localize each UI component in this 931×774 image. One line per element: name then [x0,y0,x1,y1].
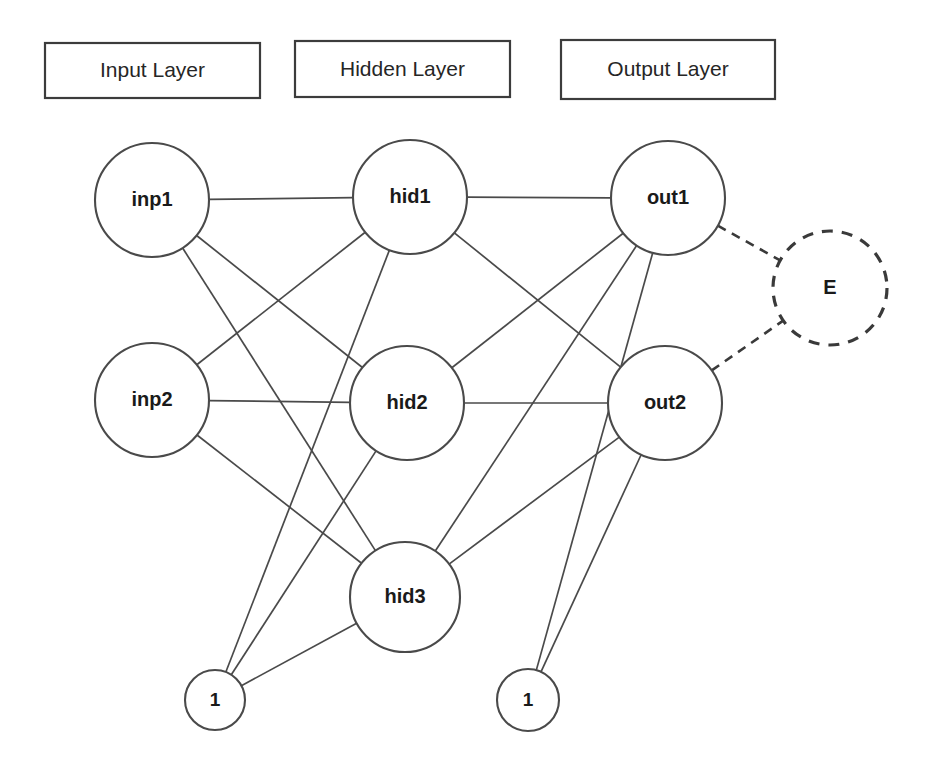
edge-hid1-to-out1 [467,197,611,198]
edge-out1-to-error [718,226,780,261]
edge-hid3-to-out1 [435,246,636,551]
node-bias1[interactable]: 1 [185,670,245,730]
output-layer-box-label: Output Layer [607,57,728,80]
node-label-hid2: hid2 [386,391,427,413]
node-label-error: E [823,276,836,298]
input-layer-box: Input Layer [45,43,260,98]
neural-network-diagram: inp1inp2hid1hid2hid3out1out2E11 Input La… [0,0,931,774]
node-label-hid3: hid3 [384,585,425,607]
hidden-layer-box-label: Hidden Layer [340,57,465,80]
node-label-inp2: inp2 [131,388,172,410]
node-inp1[interactable]: inp1 [95,143,209,257]
edge-bias2-to-out1 [536,253,652,670]
node-label-bias2: 1 [523,689,534,710]
node-hid1[interactable]: hid1 [353,140,467,254]
hidden-layer-box: Hidden Layer [295,41,510,97]
node-out1[interactable]: out1 [611,141,725,255]
node-inp2[interactable]: inp2 [95,343,209,457]
node-label-out1: out1 [647,186,689,208]
edge-inp1-to-hid3 [183,248,376,551]
nodes-group: inp1inp2hid1hid2hid3out1out2E11 [95,140,887,731]
edge-hid3-to-out2 [449,437,619,564]
edge-out2-to-error [712,321,783,371]
edge-inp2-to-hid1 [197,232,365,365]
node-label-bias1: 1 [210,689,221,710]
node-label-hid1: hid1 [389,185,430,207]
node-label-out2: out2 [644,391,686,413]
input-layer-box-label: Input Layer [100,58,205,81]
edge-bias1-to-hid2 [231,451,376,675]
diagram-canvas: inp1inp2hid1hid2hid3out1out2E11 Input La… [0,0,931,774]
node-label-inp1: inp1 [131,188,172,210]
edge-bias2-to-out2 [541,455,641,672]
node-bias2[interactable]: 1 [497,669,559,731]
layer-boxes-group: Input LayerHidden LayerOutput Layer [45,40,775,99]
edge-inp1-to-hid2 [197,236,363,368]
node-hid3[interactable]: hid3 [350,542,460,652]
node-error[interactable]: E [773,231,887,345]
edge-inp2-to-hid3 [197,435,362,563]
edge-inp1-to-hid1 [209,198,353,200]
output-layer-box: Output Layer [561,40,775,99]
node-out2[interactable]: out2 [608,346,722,460]
edge-inp2-to-hid2 [209,401,350,403]
node-hid2[interactable]: hid2 [350,346,464,460]
